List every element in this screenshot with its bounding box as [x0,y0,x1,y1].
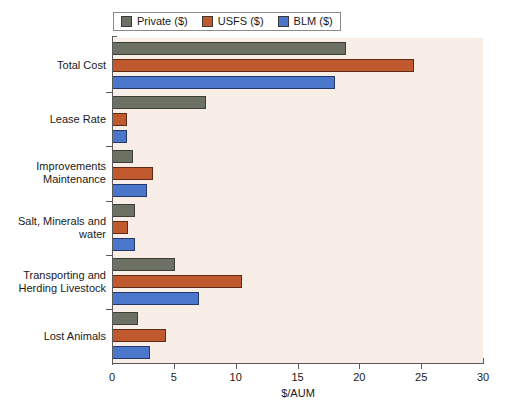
x-axis-tick [174,363,175,369]
bar [112,204,135,217]
x-axis-tick [421,363,422,369]
y-axis-tick [106,92,112,93]
bar [112,292,199,305]
x-axis-tick [236,363,237,369]
bar [112,221,128,234]
y-axis-category-label: Total Cost [2,59,106,72]
bar [112,258,175,271]
bar [112,312,138,325]
y-axis-category-label: ImprovementsMaintenance [2,160,106,186]
legend-entry[interactable]: USFS ($) [202,16,264,27]
y-axis-category-label: Lost Animals [2,329,106,342]
legend-entry[interactable]: BLM ($) [278,16,333,27]
chart-legend: Private ($)USFS ($)BLM ($) [113,12,341,31]
legend-label: USFS ($) [218,16,264,27]
category-label-line: Total Cost [2,59,106,72]
category-label-line: Maintenance [2,173,106,186]
x-axis-tick-label: 15 [291,371,303,383]
legend-label: BLM ($) [294,16,333,27]
bar [112,59,414,72]
legend-swatch-icon [278,16,289,27]
category-label-line: Transporting and [2,269,106,282]
bar-chart: Private ($)USFS ($)BLM ($) Total CostLea… [0,0,510,405]
y-axis-tick [106,309,112,310]
y-axis-category-label: Transporting andHerding Livestock [2,269,106,295]
bar [112,130,127,143]
y-axis-tick [106,255,112,256]
y-axis-line [112,36,113,365]
y-axis-tick [106,146,112,147]
bar [112,329,166,342]
x-axis-tick-label: 0 [109,371,115,383]
bar [112,113,127,126]
y-axis-category-label: Salt, Minerals andwater [2,215,106,241]
x-axis-tick-label: 30 [477,371,489,383]
legend-swatch-icon [202,16,213,27]
category-label-line: Herding Livestock [2,282,106,295]
bar [112,76,335,89]
bar [112,346,150,359]
y-axis-top-cap [112,36,117,37]
bar [112,238,135,251]
x-axis-tick [359,363,360,369]
y-axis-tick [106,201,112,202]
x-axis-end-cap [483,358,484,364]
x-axis-tick-label: 5 [171,371,177,383]
y-axis-category-label: Lease Rate [2,113,106,126]
x-axis-title: $/AUM [112,387,484,399]
legend-entry[interactable]: Private ($) [121,16,188,27]
legend-label: Private ($) [137,16,188,27]
x-axis-tick-label: 20 [353,371,365,383]
y-axis-labels: Total CostLease RateImprovementsMaintena… [0,0,106,405]
x-axis-tick [298,363,299,369]
category-label-line: Lost Animals [2,329,106,342]
legend-swatch-icon [121,16,132,27]
x-axis-tick-label: 10 [230,371,242,383]
x-axis-tick-label: 25 [415,371,427,383]
category-label-line: Lease Rate [2,113,106,126]
bar [112,96,206,109]
category-label-line: water [2,228,106,241]
bar [112,167,153,180]
category-label-line: Salt, Minerals and [2,215,106,228]
bar [112,42,346,55]
category-label-line: Improvements [2,160,106,173]
bar [112,150,133,163]
bar [112,275,242,288]
bar [112,184,147,197]
